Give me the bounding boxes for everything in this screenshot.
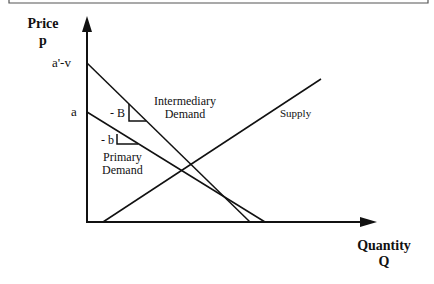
intermediary-demand-label-line2: Demand	[150, 108, 220, 121]
y-axis-label: Price	[26, 16, 60, 32]
intercept-lower: a	[71, 105, 77, 118]
supply-label: Supply	[280, 107, 311, 120]
frame-border	[9, 0, 428, 3]
x-axis-symbol: Q	[354, 254, 414, 270]
primary-demand-label-line2: Demand	[102, 164, 143, 177]
intercept-upper: a'-v	[52, 56, 71, 69]
slope-label-primary: - b	[101, 134, 114, 147]
x-axis-label: Quantity	[354, 238, 414, 254]
x-axis-arrow-icon	[360, 217, 377, 227]
slope-label-intermediary: - B	[110, 107, 125, 120]
y-axis-symbol: p	[26, 33, 60, 49]
y-axis-arrow-icon	[82, 16, 92, 32]
slope-triangle-primary	[117, 134, 138, 144]
